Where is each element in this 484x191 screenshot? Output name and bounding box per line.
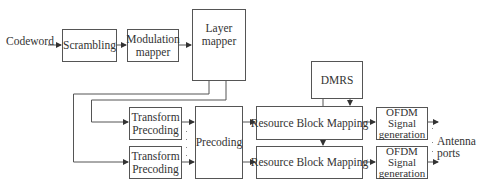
dmrs-block: DMRS [311,61,363,99]
ofdm-signal-generation-label-2: OFDM Signal generation [376,146,428,179]
codeword-label: Codeword [6,35,54,48]
ellipsis-dot [432,128,433,129]
scrambling-block: Scrambling [62,29,117,62]
resource-block-mapping-label-1: Resource Block Mapping [251,117,369,130]
antenna-ports-label-line2: ports [437,147,460,160]
transform-precoding-block-2: Transform Precoding [129,146,182,179]
transform-precoding-label-1: Transform Precoding [129,111,181,137]
precoding-block: Precoding [195,106,243,179]
ellipsis-dot [432,142,433,143]
ofdm-signal-generation-block-1: OFDM Signal generation [376,107,428,140]
precoding-label: Precoding [196,136,243,149]
ofdm-signal-generation-block-2: OFDM Signal generation [376,146,428,179]
layer-mapper-label: Layer mapper [193,22,245,48]
dmrs-label: DMRS [321,74,354,87]
ellipsis-dot [186,139,187,140]
resource-block-mapping-label-2: Resource Block Mapping [251,156,369,169]
resource-block-mapping-block-2: Resource Block Mapping [256,146,363,179]
ellipsis-dot [186,147,187,148]
resource-block-mapping-block-1: Resource Block Mapping [256,106,363,140]
transform-precoding-block-1: Transform Precoding [129,107,182,140]
ofdm-signal-generation-label-1: OFDM Signal generation [376,107,428,140]
ellipsis-dot [432,151,433,152]
scrambling-label: Scrambling [63,39,116,52]
transform-precoding-label-2: Transform Precoding [129,150,181,176]
layer-mapper-block: Layer mapper [192,9,246,81]
modulation-mapper-label: Modulation mapper [124,33,182,59]
ellipsis-dot [186,131,187,132]
ellipsis-dot [186,155,187,156]
modulation-mapper-block: Modulation mapper [127,29,179,62]
